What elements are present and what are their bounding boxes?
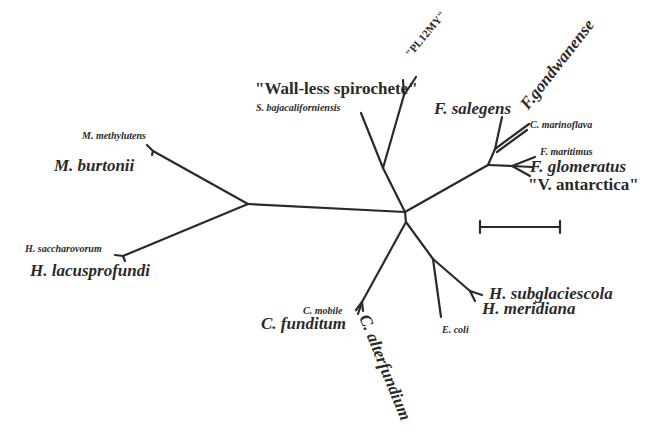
label-f-salegens: F. salegens <box>434 100 511 117</box>
branch-glomeratus-stem <box>488 165 512 166</box>
label-s-bajacaliforniensis: S. bajacaliforniensis <box>256 103 340 113</box>
branch-halomonas <box>433 259 470 291</box>
label-h-meridiana: H. meridiana <box>482 300 576 317</box>
branch-m-burtonii <box>152 151 153 155</box>
branch-spirochete-stem <box>383 95 404 168</box>
label-h-lacusprofundi: H. lacusprofundi <box>30 262 150 279</box>
branch-s-bajacaliforniensis <box>361 113 383 168</box>
branch-cryo-stem <box>362 222 406 302</box>
branch-down-stem <box>405 212 406 222</box>
label-e-coli: E. coli <box>442 325 469 335</box>
branch-up-stem <box>383 168 405 212</box>
label-f-maritimus: F. maritimus <box>540 147 593 157</box>
branch-flavo-stem <box>488 149 495 165</box>
branch-center-left <box>248 204 405 212</box>
branch-e-coli <box>433 259 441 317</box>
label-wall-less-spirochete: "Wall-less spirochete" <box>255 80 418 97</box>
label-c-marinoflava: C. marinoflava <box>530 120 592 130</box>
label-m-burtonii: M. burtonii <box>54 157 134 174</box>
branch-right-stem <box>405 165 488 212</box>
branch-m-methylutens <box>147 145 153 151</box>
label-f-glomeratus: F. glomeratus <box>530 158 626 175</box>
label-v-antarctica: "V. antarctica" <box>528 176 639 193</box>
scale-bar <box>480 221 560 233</box>
label-m-methylutens: M. methylutens <box>82 131 146 141</box>
label-c-funditum: C. funditum <box>261 315 346 332</box>
phylogenetic-tree <box>0 0 671 434</box>
branch-c-alterfundium <box>362 302 363 311</box>
branch-gamma-stem <box>406 222 433 259</box>
branch-methanococcoides <box>153 151 248 204</box>
branch-f-gondwanense <box>497 130 527 152</box>
branch-halobacteria <box>123 204 248 256</box>
branch-h-saccharovorum <box>115 255 123 256</box>
label-h-saccharovorum: H. saccharovorum <box>25 244 102 254</box>
